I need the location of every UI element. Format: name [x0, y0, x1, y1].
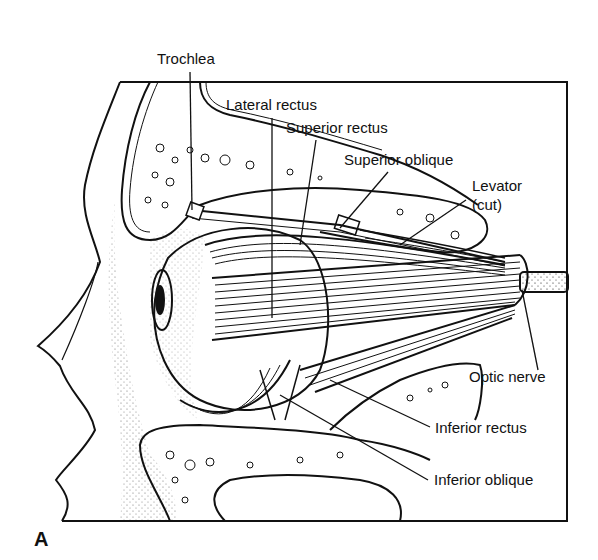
leader-inferior-rectus: [330, 380, 430, 427]
label-levator-cut: (cut): [472, 196, 502, 213]
face-profile: [38, 82, 120, 521]
label-lateral-rectus: Lateral rectus: [226, 96, 317, 113]
label-superior-rectus: Superior rectus: [286, 119, 388, 136]
label-trochlea: Trochlea: [157, 50, 215, 67]
orbit-anatomy-figure: Trochlea Lateral rectus Superior rectus …: [0, 0, 598, 560]
superior-rectus-muscle: [205, 235, 505, 275]
pupil: [156, 286, 164, 314]
inferior-oblique-muscle: [180, 360, 300, 420]
orbit-soft-tissue: [109, 200, 205, 521]
leader-trochlea: [190, 72, 192, 210]
label-levator: Levator: [472, 177, 522, 194]
leader-optic-nerve: [522, 290, 538, 370]
label-inferior-oblique: Inferior oblique: [434, 471, 533, 488]
label-optic-nerve: Optic nerve: [469, 368, 546, 385]
lateral-rectus-muscle: [212, 255, 528, 340]
label-inferior-rectus: Inferior rectus: [435, 419, 527, 436]
panel-letter: A: [34, 528, 48, 551]
optic-nerve: [520, 272, 568, 292]
label-superior-oblique: Superior oblique: [344, 151, 453, 168]
leader-superior-oblique: [340, 172, 388, 228]
leader-levator: [400, 200, 466, 245]
